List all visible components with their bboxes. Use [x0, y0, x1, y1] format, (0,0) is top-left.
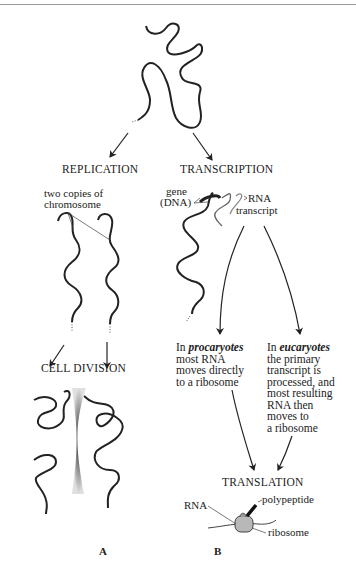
arrow-to-eucaryotes	[264, 226, 300, 334]
arrow-procaryotes-to-translation	[232, 390, 254, 470]
eucaryotes-emphasis: eucaryotes	[279, 341, 329, 353]
eucaryotes-text: In eucaryotes the primary transcript is …	[267, 342, 335, 434]
replication-heading: REPLICATION	[62, 163, 138, 175]
gene-label-line2: (DNA)	[160, 197, 191, 209]
procaryotes-rest: most RNA moves directly to a ribosome	[176, 353, 244, 388]
polypeptide-label: polypeptide	[262, 494, 314, 506]
ribosome-label: ribosome	[268, 527, 309, 539]
cell-division-heading: CELL DIVISION	[41, 362, 126, 374]
translation-heading: TRANSLATION	[222, 476, 303, 488]
rna-transcript-label-line1: RNA	[248, 193, 271, 205]
cell-division-icon	[34, 388, 123, 514]
eucaryotes-rest: the primary transcript is processed, and…	[267, 353, 335, 434]
procaryotes-prefix: In	[176, 341, 188, 353]
chromosome-icon	[132, 24, 202, 128]
rna-label: RNA	[184, 500, 207, 512]
procaryotes-emphasis: procaryotes	[188, 341, 243, 353]
replicated-chromosomes-icon	[58, 213, 118, 334]
rna-transcript-label-line2: transcript	[236, 205, 278, 217]
eucaryotes-prefix: In	[267, 341, 279, 353]
arrow-to-procaryotes	[220, 226, 244, 334]
arrow-to-transcription	[193, 133, 212, 160]
arrow-to-replication	[110, 133, 128, 157]
panel-label-a: A	[99, 545, 107, 557]
two-copies-label-line2: chromosome	[44, 199, 101, 211]
arrow-eucaryotes-to-translation	[278, 436, 292, 470]
panel-label-b: B	[214, 545, 221, 557]
procaryotes-text: In procaryotes most RNA moves directly t…	[176, 342, 244, 388]
transcription-heading: TRANSCRIPTION	[180, 163, 273, 175]
